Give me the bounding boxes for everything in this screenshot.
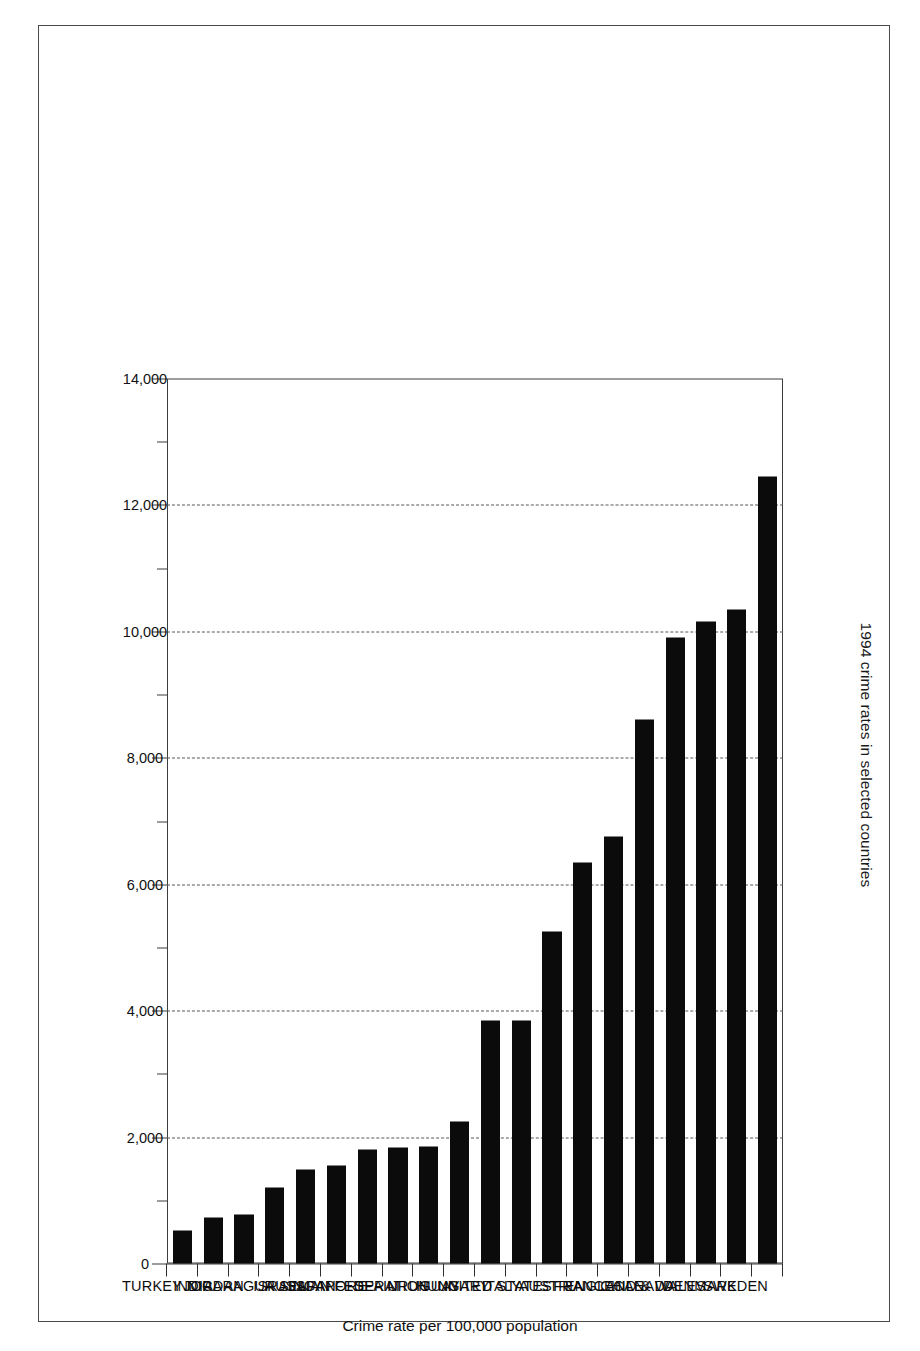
axis-tick-major <box>152 1263 167 1264</box>
axis-tick-label: 8,000 <box>127 749 163 765</box>
category-tick <box>536 1263 537 1276</box>
bar <box>327 1165 346 1263</box>
category-tick <box>166 1263 167 1276</box>
category-tick <box>320 1263 321 1276</box>
category-tick <box>382 1263 383 1276</box>
value-axis-label: Crime rate per 100,000 population <box>342 1316 577 1334</box>
category-tick <box>628 1263 629 1276</box>
category-tick <box>566 1263 567 1276</box>
bar <box>450 1121 469 1263</box>
bar <box>727 609 746 1263</box>
bar <box>265 1187 284 1263</box>
chart-stage: 1994 crime rates in selected countries 0… <box>0 0 920 1351</box>
category-tick <box>720 1263 721 1276</box>
category-tick <box>505 1263 506 1276</box>
bar <box>419 1146 438 1263</box>
bar <box>604 836 623 1263</box>
category-tick <box>258 1263 259 1276</box>
axis-tick-minor <box>157 441 167 442</box>
bars-group <box>167 378 783 1263</box>
bar <box>358 1149 377 1263</box>
axis-tick-label: 6,000 <box>127 876 163 892</box>
axis-tick-label: 12,000 <box>123 496 167 512</box>
bar <box>635 719 654 1263</box>
axis-tick-minor <box>157 694 167 695</box>
bar <box>696 621 715 1263</box>
category-label: TURKEY <box>122 1277 182 1293</box>
category-tick <box>690 1263 691 1276</box>
axis-tick-minor <box>157 568 167 569</box>
bar <box>388 1147 407 1263</box>
category-tick <box>782 1263 783 1276</box>
category-tick <box>751 1263 752 1276</box>
bar <box>173 1230 192 1263</box>
category-tick <box>443 1263 444 1276</box>
bar <box>234 1214 253 1263</box>
category-tick <box>474 1263 475 1276</box>
category-tick <box>197 1263 198 1276</box>
chart-rotation-wrapper: 1994 crime rates in selected countries 0… <box>0 0 920 1351</box>
axis-tick-label: 2,000 <box>127 1129 163 1145</box>
bar <box>204 1217 223 1263</box>
axis-tick-label: 4,000 <box>127 1002 163 1018</box>
chart-title: 1994 crime rates in selected countries <box>857 622 875 887</box>
axis-tick-minor <box>157 1200 167 1201</box>
axis-tick-label: 0 <box>141 1255 149 1271</box>
category-tick <box>351 1263 352 1276</box>
bar <box>573 862 592 1263</box>
bar <box>758 476 777 1263</box>
axis-tick-minor <box>157 1073 167 1074</box>
bar <box>512 1020 531 1263</box>
bar <box>481 1020 500 1263</box>
bar <box>542 931 561 1263</box>
category-tick <box>289 1263 290 1276</box>
category-tick <box>228 1263 229 1276</box>
axis-tick-minor <box>157 947 167 948</box>
axis-tick-label: 10,000 <box>123 623 167 639</box>
bar <box>666 637 685 1263</box>
category-tick <box>659 1263 660 1276</box>
category-tick <box>597 1263 598 1276</box>
category-tick <box>412 1263 413 1276</box>
axis-tick-label: 14,000 <box>123 370 167 386</box>
bar <box>296 1169 315 1263</box>
axis-tick-minor <box>157 821 167 822</box>
